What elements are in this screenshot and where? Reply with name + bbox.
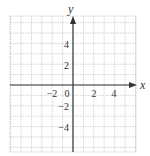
y-tick-label: −4 <box>58 122 69 133</box>
coordinate-plane: x y −2 0 2 4 4 2 −2 −4 <box>0 0 150 156</box>
y-axis-arrow-icon <box>70 16 76 24</box>
y-tick-label: 4 <box>64 39 69 50</box>
x-tick-label: −2 <box>47 88 58 99</box>
y-tick-label: 2 <box>64 60 69 71</box>
axes <box>10 16 137 152</box>
x-tick-label: 2 <box>92 88 97 99</box>
x-tick-label: 0 <box>65 88 70 99</box>
x-tick-label: 4 <box>112 88 117 99</box>
y-axis-label: y <box>67 2 74 16</box>
y-tick-label: −2 <box>58 101 69 112</box>
x-axis-label: x <box>139 78 146 92</box>
